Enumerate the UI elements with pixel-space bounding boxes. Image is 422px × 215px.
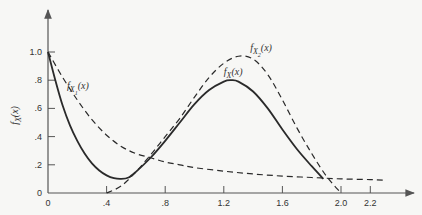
x-tick-label: 0	[45, 198, 50, 208]
series-label-f-x1-x: fX1(x)	[67, 80, 89, 96]
curve-labels: fX(x)fX1(x)fX2(x)	[67, 42, 273, 96]
series-label-f-x2-x: fX2(x)	[250, 42, 272, 58]
y-tick-label: .6	[34, 103, 42, 113]
series-label-f-x-x: fX(x)	[224, 66, 243, 80]
axes	[48, 10, 414, 193]
y-tick-label: .8	[34, 75, 42, 85]
y-tick-label: 1.0	[29, 47, 42, 57]
x-tick-label: 2.0	[335, 198, 348, 208]
x-tick-label: 1.2	[218, 198, 231, 208]
x-tick-label: 1.6	[276, 198, 289, 208]
y-tick-label: .4	[34, 132, 42, 142]
x-tick-label: 2.2	[364, 198, 377, 208]
y-tick-label: .2	[34, 160, 42, 170]
x-tick-label: .8	[161, 198, 169, 208]
x-tick-label: .4	[103, 198, 111, 208]
y-axis-title: fX(x)	[9, 105, 23, 124]
y-tick-label: 0	[37, 188, 42, 198]
series-line-f-x1-x	[48, 52, 385, 180]
chart: 0.4.81.21.62.02.20.2.4.6.81.0 fX(x)fX1(x…	[0, 0, 422, 215]
curves	[48, 52, 385, 193]
ticks: 0.4.81.21.62.02.20.2.4.6.81.0	[29, 47, 376, 208]
